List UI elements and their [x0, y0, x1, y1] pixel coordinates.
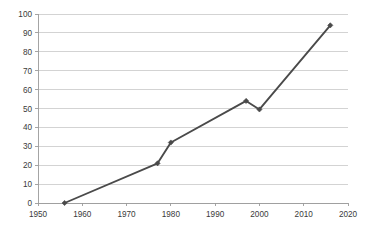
x-axis-tick-labels: 19501960197019801990200020102020	[29, 210, 358, 219]
x-tick-label: 1950	[29, 210, 48, 219]
y-tick-label: 90	[23, 29, 33, 38]
y-axis-tick-labels: 0102030405060708090100	[18, 10, 32, 208]
y-tick-label: 100	[18, 10, 32, 19]
y-tick-label: 0	[27, 199, 32, 208]
x-tick-label: 1990	[206, 210, 225, 219]
x-tick-label: 1960	[73, 210, 92, 219]
series-group	[62, 23, 333, 206]
gridlines-group	[38, 14, 348, 203]
y-tick-label: 20	[23, 161, 33, 170]
x-tick-label: 1970	[117, 210, 136, 219]
y-tick-label: 60	[23, 86, 33, 95]
line-chart: 0102030405060708090100 19501960197019801…	[0, 0, 372, 238]
y-tick-label: 70	[23, 67, 33, 76]
x-tick-label: 2010	[295, 210, 314, 219]
y-tick-label: 10	[23, 180, 33, 189]
x-tick-label: 1980	[162, 210, 181, 219]
y-tick-label: 40	[23, 123, 33, 132]
data-point-marker	[62, 200, 67, 205]
x-tick-label: 2000	[250, 210, 269, 219]
y-tick-label: 50	[23, 105, 33, 114]
chart-canvas: 0102030405060708090100 19501960197019801…	[0, 0, 372, 238]
y-tick-label: 80	[23, 48, 33, 57]
axes-group	[35, 14, 348, 206]
x-tick-label: 2020	[339, 210, 358, 219]
y-tick-label: 30	[23, 142, 33, 151]
